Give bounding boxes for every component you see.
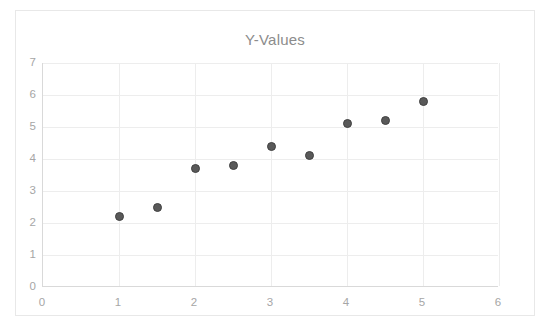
y-axis-tick-label: 0 <box>10 281 36 293</box>
data-point[interactable] <box>305 151 314 160</box>
x-axis-tick-label: 6 <box>478 297 518 309</box>
data-point[interactable] <box>153 203 162 212</box>
gridline-vertical <box>195 63 196 286</box>
y-axis-tick-label: 6 <box>10 89 36 101</box>
x-axis-tick-label: 4 <box>326 297 366 309</box>
x-axis-tick-label: 3 <box>250 297 290 309</box>
y-axis-tick-label: 7 <box>10 57 36 69</box>
x-axis: 0123456 <box>0 297 552 313</box>
data-point[interactable] <box>343 119 352 128</box>
y-axis-tick-label: 1 <box>10 249 36 261</box>
gridline-vertical <box>271 63 272 286</box>
y-axis-tick-label: 5 <box>10 121 36 133</box>
x-axis-tick-label: 1 <box>98 297 138 309</box>
y-axis-tick-label: 2 <box>10 217 36 229</box>
y-axis-tick-label: 4 <box>10 153 36 165</box>
data-point[interactable] <box>115 212 124 221</box>
data-point[interactable] <box>191 164 200 173</box>
y-axis-tick-label: 3 <box>10 185 36 197</box>
gridline-vertical <box>347 63 348 286</box>
data-point[interactable] <box>267 142 276 151</box>
data-point[interactable] <box>229 161 238 170</box>
x-axis-tick-label: 0 <box>22 297 62 309</box>
data-point[interactable] <box>381 116 390 125</box>
gridline-vertical <box>119 63 120 286</box>
chart-title: Y-Values <box>16 31 534 48</box>
gridline-vertical <box>499 63 500 286</box>
x-axis-tick-label: 5 <box>402 297 442 309</box>
x-axis-tick-label: 2 <box>174 297 214 309</box>
data-point[interactable] <box>419 97 428 106</box>
plot-area <box>42 63 498 287</box>
y-axis: 01234567 <box>6 0 36 328</box>
